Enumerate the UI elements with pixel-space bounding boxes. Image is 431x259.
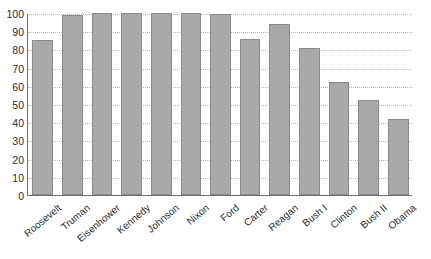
y-tick-label: 80 — [0, 45, 24, 56]
bar — [92, 13, 113, 195]
bar — [181, 13, 202, 195]
bar — [240, 39, 261, 195]
bottom-cut-text — [6, 251, 246, 259]
bar-chart-figure: 0102030405060708090100 RooseveltTrumanEi… — [0, 0, 431, 259]
bar — [210, 14, 231, 195]
y-tick-label: 50 — [0, 100, 24, 111]
y-tick-label: 90 — [0, 27, 24, 38]
y-tick-label: 40 — [0, 118, 24, 129]
plot-area — [27, 14, 412, 196]
y-tick-label: 20 — [0, 154, 24, 165]
y-tick-label: 70 — [0, 63, 24, 74]
y-tick-label: 100 — [0, 9, 24, 20]
bar — [121, 13, 142, 195]
x-axis: RooseveltTrumanEisenhowerKennedyJohnsonN… — [0, 196, 431, 259]
bar — [388, 119, 409, 195]
y-tick-label: 30 — [0, 136, 24, 147]
bar — [299, 48, 320, 195]
bar — [62, 15, 83, 195]
bar — [358, 100, 379, 195]
bar — [151, 13, 172, 195]
bar — [32, 40, 53, 195]
y-tick-label: 10 — [0, 173, 24, 184]
bars-layer — [28, 14, 412, 195]
bar — [329, 82, 350, 195]
y-tick-label: 60 — [0, 82, 24, 93]
bar — [269, 24, 290, 195]
